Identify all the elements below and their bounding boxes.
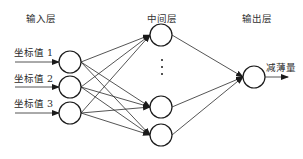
output-layer-title: 输出层 — [242, 13, 272, 24]
input-hidden-edges — [81, 35, 150, 135]
hidden-node-3 — [150, 124, 172, 146]
input-node-3 — [59, 102, 81, 124]
hidden-output-edges — [172, 35, 243, 135]
input-node-1 — [59, 51, 81, 73]
output-label: 减薄量 — [266, 62, 296, 73]
neural-network-diagram: 输入层 中间层 输出层 坐标值 1 坐标值 2 坐标值 3 减薄量 — [0, 0, 303, 159]
hidden-layer-title: 中间层 — [147, 13, 177, 24]
input-label-1: 坐标值 1 — [14, 47, 53, 58]
input-layer-title: 输入层 — [26, 13, 56, 24]
input-label-2: 坐标值 2 — [14, 73, 53, 84]
hidden-node-2 — [150, 96, 172, 118]
hidden-ellipsis — [161, 59, 163, 75]
hidden-node-1 — [150, 24, 172, 46]
input-label-3: 坐标值 3 — [14, 98, 53, 109]
input-node-2 — [59, 76, 81, 98]
output-node — [243, 66, 265, 88]
